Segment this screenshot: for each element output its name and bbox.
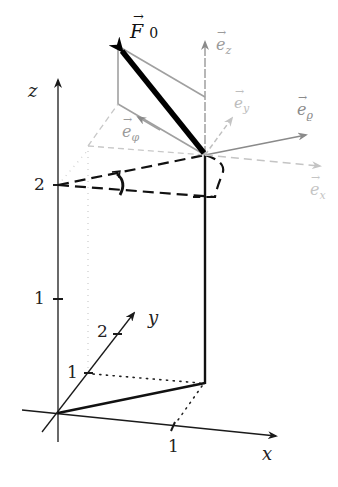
label-e-y: →ey	[234, 94, 249, 115]
diagram-canvas: → F 0 →ez →ey →eϱ →ex →eφ z 2 1 y 2 1 x …	[0, 0, 338, 487]
z-tick-label-1: 1	[34, 288, 45, 308]
label-e-rho: →eϱ	[297, 100, 313, 122]
angle-arc	[117, 174, 123, 195]
x-axis-label: x	[262, 443, 272, 464]
y-axis-label: y	[148, 307, 158, 328]
y-axis	[42, 313, 134, 432]
z-tick-label-2: 2	[34, 174, 45, 194]
label-e-phi: →eφ	[122, 122, 139, 144]
e-phi-arrow	[138, 117, 160, 130]
y-tick-label-2: 2	[97, 321, 108, 341]
ground-projection-lines	[93, 374, 202, 420]
e-y-arrow	[205, 118, 232, 155]
x-tick-1	[171, 422, 175, 431]
label-e-x: →ex	[310, 180, 326, 202]
x-axis	[22, 410, 276, 436]
y-tick-label-1: 1	[67, 362, 78, 382]
e-rho-arrow	[205, 135, 306, 155]
z-axis-label: z	[28, 80, 37, 101]
label-force: → F 0	[130, 20, 158, 42]
z-axis	[53, 80, 63, 442]
angle-phi-wedge	[58, 155, 223, 197]
label-e-z: →ez	[216, 35, 231, 57]
x-tick-label-1: 1	[168, 436, 179, 456]
